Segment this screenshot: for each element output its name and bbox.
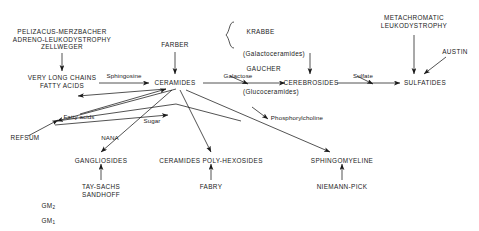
- edge-label-phosphorylcholine: Phosphorylcholine: [271, 114, 323, 121]
- node-tay-sachs-sandhoff: TAY-SACHS SANDHOFF: [82, 183, 120, 198]
- node-fabry: FABRY: [200, 183, 223, 191]
- edge-label-fatty-acids: Fatty acids: [63, 113, 94, 120]
- edge-ceramides-to-polyhexosides: [180, 90, 211, 152]
- edge-label-galactose: Galactose: [224, 72, 253, 79]
- node-pelizacus-merzbacher-block: PELIZACUS-MERZBACHER ADRENO-LEUKODYSTROP…: [13, 28, 111, 51]
- node-krabbe-label: KRABBE: [247, 28, 275, 35]
- node-krabbe-gaucher-group: KRABBE (Galactoceramides) GAUCHER (Gluco…: [238, 20, 305, 111]
- edge-label-sugar: Sugar: [143, 117, 160, 124]
- edge-label-sphingosine: Sphingosine: [106, 72, 141, 79]
- edge-label-sulfate: Sulfate: [353, 72, 373, 79]
- node-very-long-chains-fatty-acids: VERY LONG CHAINS FATTY ACIDS: [28, 74, 97, 89]
- node-gm2: GM2: [42, 202, 56, 209]
- node-sphingomyeline: SPHINGOMYELINE: [311, 157, 373, 165]
- node-gangliosides: GANGLIOSIDES: [75, 157, 128, 165]
- node-refsum: REFSUM: [10, 134, 39, 142]
- node-gaucher-substrate: (Glucoceramides): [238, 88, 305, 96]
- node-ceramides-poly-hexosides: CERAMIDES POLY-HEXOSIDES: [159, 157, 263, 165]
- node-ceramides: CERAMIDES: [154, 79, 195, 87]
- node-gm1: GM1: [42, 217, 56, 224]
- node-krabbe-substrate: (Galactoceramides): [238, 50, 305, 58]
- node-metachromatic-leukodystrophy: METACHROMATIC LEUKODYSTROPHY: [381, 14, 447, 29]
- node-gm-series: GM2 GM1 GM3: [33, 194, 55, 231]
- sphingolipid-pathway-diagram: PELIZACUS-MERZBACHER ADRENO-LEUKODYSTROP…: [0, 0, 479, 231]
- edge-label-nana: NANA: [101, 134, 119, 141]
- node-sulfatides: SULFATIDES: [404, 79, 446, 87]
- node-niemann-pick: NIEMANN-PICK: [317, 183, 368, 191]
- node-cerebrosides: CEREBROSIDES: [284, 79, 339, 87]
- krabbe-gaucher-brace: [226, 22, 234, 48]
- node-farber: FARBER: [161, 41, 189, 49]
- node-austin: AUSTIN: [442, 48, 468, 56]
- edge-austin-to-sulfatides: [424, 57, 446, 74]
